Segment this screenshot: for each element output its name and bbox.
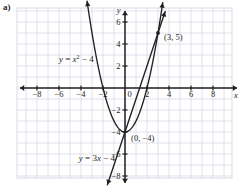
graph-canvas: −8−6−4−202468−8−6−4−2246xy (3, 5)(0, −4)… [0,0,244,190]
tick-label-y-6: 6 [116,17,120,27]
tick-label-x--6: −6 [54,89,63,99]
tick-labels: −8−6−4−202468−8−6−4−2246xy [32,5,238,181]
y-axis-label: y [116,5,121,15]
x-axis-label: x [233,90,238,100]
tick-label-y--4: −4 [111,127,121,137]
tick-label-x-6: 6 [189,89,193,99]
part-label: a) [3,2,11,12]
equation-label-1: y = 3x − 4 [78,153,116,163]
tick-label-y--8: −8 [111,171,120,181]
point-label-1: (0, −4) [131,133,154,143]
tick-label-x--4: −4 [76,89,86,99]
tick-label-x--8: −8 [32,89,41,99]
point-label-0: (3, 5) [164,32,183,42]
curve-labels: y = x2 − 4y = 3x − 4 [58,54,115,163]
point-marker [156,31,160,35]
tick-label-x-0: 0 [128,89,132,99]
plotted-points: (3, 5)(0, −4) [131,31,183,143]
tick-label-x-8: 8 [211,89,215,99]
tick-label-y--2: −2 [111,105,120,115]
tick-label-x-4: 4 [167,89,172,99]
tick-label-y-2: 2 [116,61,120,71]
equation-label-0: y = x2 − 4 [58,54,94,64]
figure-panel: a) −8−6−4−202468−8−6−4−2246xy (3, 5)(0, … [0,0,244,190]
